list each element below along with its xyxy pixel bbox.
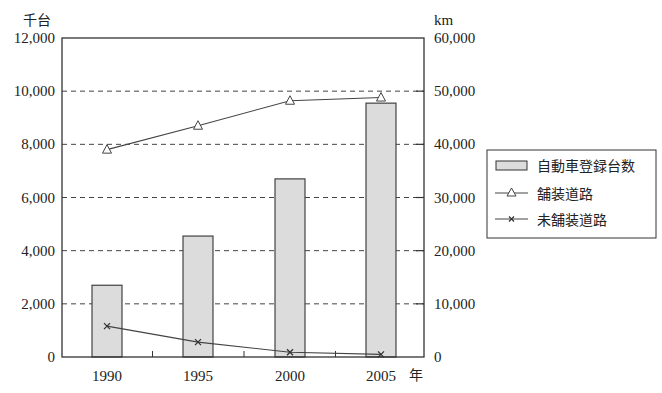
- right-tick-label: 60,000: [434, 30, 475, 46]
- line-series: [103, 93, 386, 358]
- left-tick-label: 8,000: [21, 136, 55, 152]
- unpaved-road-line: [107, 326, 381, 354]
- chart: 02,0004,0006,0008,00010,00012,000 010,00…: [0, 0, 662, 393]
- left-y-axis-labels: 02,0004,0006,0008,00010,00012,000: [14, 30, 55, 365]
- right-tick-label: 50,000: [434, 83, 475, 99]
- bar-1990: [92, 285, 122, 357]
- x-axis-ticks: [153, 351, 336, 357]
- triangle-marker-icon: [286, 96, 295, 105]
- left-tick-label: 0: [48, 349, 56, 365]
- x-tick-label: 2000: [275, 368, 305, 384]
- right-tick-label: 10,000: [434, 296, 475, 312]
- x-tick-label: 2005: [366, 368, 396, 384]
- x-tick-label: 1990: [92, 368, 122, 384]
- right-tick-label: 30,000: [434, 190, 475, 206]
- right-axis-unit: km: [434, 12, 454, 28]
- left-tick-label: 2,000: [21, 296, 55, 312]
- bar-2000: [275, 179, 305, 357]
- paved-road-line: [107, 98, 381, 150]
- legend-label-vehicles: 自動車登録台数: [537, 158, 635, 174]
- right-y-axis-labels: 010,00020,00030,00040,00050,00060,000: [434, 30, 475, 365]
- legend-bar-swatch: [496, 161, 527, 170]
- bar-2005: [366, 103, 396, 357]
- x-axis-labels: 1990199520002005: [92, 368, 396, 384]
- left-axis-unit: 千台: [23, 12, 51, 28]
- legend-label-unpaved: 未舗装道路: [537, 212, 607, 228]
- legend-label-paved: 舗装道路: [537, 186, 593, 202]
- right-tick-label: 20,000: [434, 243, 475, 259]
- legend: 自動車登録台数 舗装道路 未舗装道路: [487, 150, 656, 238]
- left-tick-label: 4,000: [21, 243, 55, 259]
- left-tick-label: 12,000: [14, 30, 55, 46]
- bar-1995: [183, 236, 213, 357]
- x-tick-label: 1995: [183, 368, 213, 384]
- left-tick-label: 6,000: [21, 190, 55, 206]
- right-tick-label: 40,000: [434, 136, 475, 152]
- triangle-marker-icon: [377, 93, 386, 102]
- x-axis-unit: 年: [409, 367, 423, 383]
- left-tick-label: 10,000: [14, 83, 55, 99]
- right-tick-label: 0: [434, 349, 442, 365]
